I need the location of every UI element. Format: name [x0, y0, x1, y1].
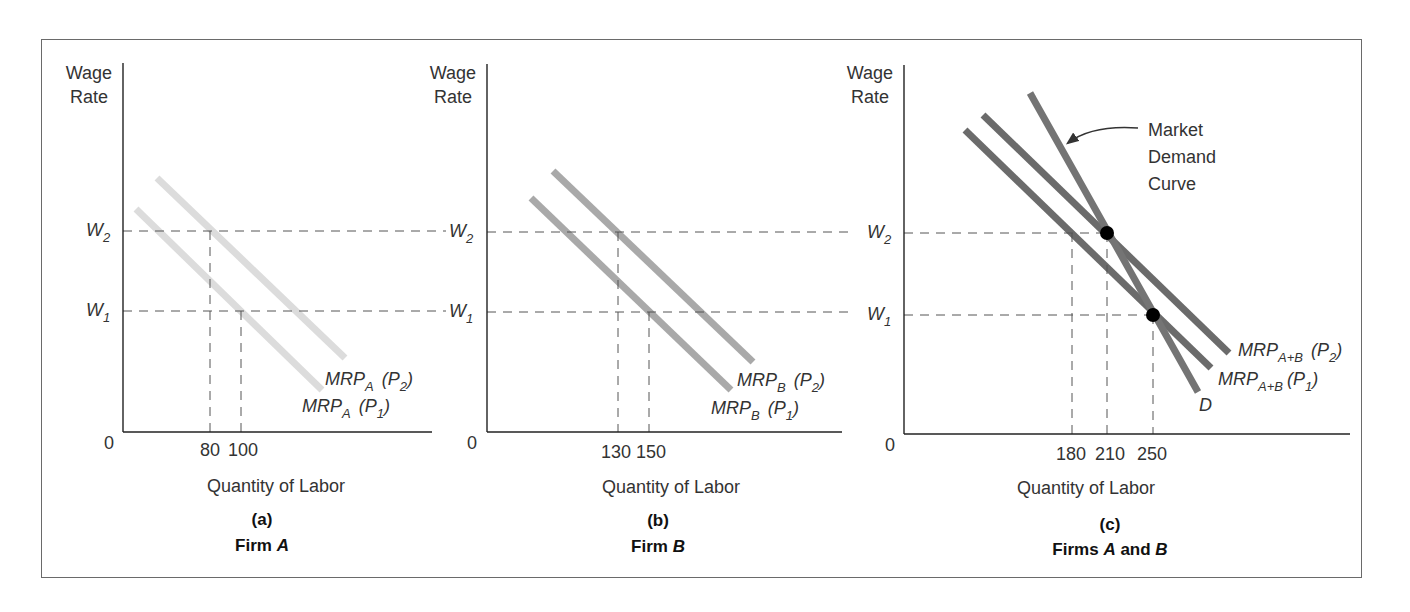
w2-label: W2	[449, 221, 474, 246]
equilibrium-point-w1	[1146, 308, 1160, 322]
panel-a: Wage Rate W2 W1 0 80 100 MRPA(P2) MRPA(P…	[66, 63, 446, 555]
x-axis-label: Quantity of Labor	[1017, 478, 1155, 498]
market-labor-demand-figure: Wage Rate W2 W1 0 80 100 MRPA(P2) MRPA(P…	[0, 0, 1410, 612]
w1-label: W1	[86, 300, 110, 325]
annotation-arrow-icon	[1068, 128, 1138, 143]
y-axis-label-line2: Rate	[434, 87, 472, 107]
panel-letter: (b)	[647, 511, 669, 530]
equilibrium-point-w2	[1100, 226, 1114, 240]
origin-label: 0	[467, 433, 477, 453]
annotation-line2: Demand	[1148, 147, 1216, 167]
y-axis-label-line1: Wage	[847, 63, 893, 83]
mrp-ab-p2-label: MRPA+B(P2)	[1238, 340, 1342, 365]
x-axis-label: Quantity of Labor	[207, 476, 345, 496]
mrp-a-p2-curve	[157, 178, 345, 358]
mrp-ab-p1-label: MRPA+B(P1)	[1218, 369, 1318, 394]
x-tick-80: 80	[200, 440, 220, 460]
mrp-a-p2-label: MRPA(P2)	[325, 369, 413, 394]
x-tick-180: 180	[1056, 444, 1086, 464]
panel-title: Firm A	[235, 536, 289, 555]
x-tick-210: 210	[1095, 444, 1125, 464]
y-axis-label-line2: Rate	[70, 87, 108, 107]
panel-c: Wage Rate W2 W1 0 180 210 250 Market Dem…	[847, 63, 1350, 559]
panel-title: Firms A and B	[1052, 540, 1167, 559]
y-axis-label-line1: Wage	[430, 63, 476, 83]
annotation-line3: Curve	[1148, 174, 1196, 194]
x-tick-150: 150	[636, 442, 666, 462]
y-axis-label-line1: Wage	[66, 63, 112, 83]
w2-label: W2	[867, 222, 892, 247]
panel-title: Firm B	[631, 537, 685, 556]
origin-label: 0	[104, 433, 114, 453]
x-tick-250: 250	[1137, 444, 1167, 464]
mrp-b-p1-label: MRPB(P1)	[711, 398, 799, 423]
w1-label: W1	[449, 301, 473, 326]
mrp-a-p1-curve	[136, 209, 322, 390]
panel-b: Wage Rate W2 W1 0 130 150 MRPB(P2) MRPB(…	[430, 63, 848, 556]
x-tick-130: 130	[601, 442, 631, 462]
mrp-b-p2-label: MRPB(P2)	[737, 370, 825, 395]
mrp-b-p1-curve	[531, 198, 731, 390]
annotation-line1: Market	[1148, 120, 1203, 140]
demand-label: D	[1199, 395, 1212, 415]
mrp-a-p1-label: MRPA(P1)	[302, 396, 390, 421]
origin-label: 0	[885, 435, 895, 455]
panel-letter: (c)	[1100, 515, 1121, 534]
mrp-b-p2-curve	[553, 171, 753, 362]
figure-canvas: Wage Rate W2 W1 0 80 100 MRPA(P2) MRPA(P…	[0, 0, 1410, 612]
panel-letter: (a)	[252, 510, 273, 529]
w1-label: W1	[867, 304, 891, 329]
x-axis-label: Quantity of Labor	[602, 477, 740, 497]
w2-label: W2	[86, 220, 111, 245]
y-axis-label-line2: Rate	[851, 87, 889, 107]
x-tick-100: 100	[228, 440, 258, 460]
